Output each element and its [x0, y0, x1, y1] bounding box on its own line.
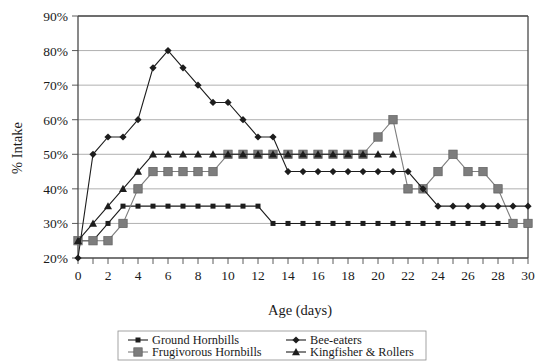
data-point: [464, 167, 472, 175]
data-point: [314, 168, 321, 175]
data-point: [119, 219, 127, 227]
y-axis-title: % Intake: [9, 122, 25, 174]
data-point: [256, 204, 261, 209]
data-point: [299, 168, 306, 175]
data-point: [391, 221, 396, 226]
x-tick-label-4: 8: [195, 268, 202, 283]
intake-vs-age-line-chart: 90%80%70%60%50%40%30%20% 024681012141618…: [0, 0, 543, 364]
x-tick-label-14: 28: [491, 268, 505, 283]
data-point: [344, 168, 351, 175]
data-point: [479, 203, 486, 210]
x-tick-label-7: 14: [281, 268, 295, 283]
y-tick-label-6: 30%: [43, 216, 68, 231]
x-tick-label-12: 24: [431, 268, 445, 283]
chart-legend: Ground HornbillsBee-eatersFrugivorous Ho…: [118, 331, 426, 360]
y-tick-label-3: 60%: [43, 113, 68, 128]
y-tick-label-0: 90%: [43, 9, 68, 24]
data-point: [464, 203, 471, 210]
chart-container: 90%80%70%60%50%40%30%20% 024681012141618…: [0, 0, 543, 364]
data-point: [151, 204, 156, 209]
data-point: [451, 221, 456, 226]
y-axis-tick-labels: 90%80%70%60%50%40%30%20%: [43, 9, 68, 266]
data-point: [271, 221, 276, 226]
x-tick-label-8: 16: [311, 268, 325, 283]
data-point: [181, 204, 186, 209]
data-point: [226, 204, 231, 209]
x-tick-label-3: 6: [165, 268, 172, 283]
x-tick-label-10: 20: [371, 268, 385, 283]
x-tick-label-2: 4: [135, 268, 142, 283]
data-point: [481, 221, 486, 226]
data-point: [494, 185, 502, 193]
data-point: [376, 221, 381, 226]
y-tick-label-7: 20%: [43, 251, 68, 266]
legend-label: Kingfisher & Rollers: [310, 345, 414, 359]
data-point: [209, 167, 217, 175]
x-tick-label-15: 30: [521, 268, 535, 283]
data-point: [74, 254, 81, 261]
data-point: [106, 221, 111, 226]
data-point: [194, 167, 202, 175]
data-point: [406, 221, 411, 226]
data-point: [524, 219, 532, 227]
data-point: [286, 221, 291, 226]
data-point: [121, 204, 126, 209]
data-point: [389, 116, 397, 124]
data-point: [509, 203, 516, 210]
data-point: [421, 221, 426, 226]
data-point: [449, 203, 456, 210]
data-point: [301, 221, 306, 226]
x-tick-label-0: 0: [75, 268, 82, 283]
data-point: [359, 168, 366, 175]
data-point: [496, 221, 501, 226]
data-point: [329, 168, 336, 175]
data-point: [196, 204, 201, 209]
data-point: [374, 168, 381, 175]
data-point: [241, 204, 246, 209]
x-axis-title: Age (days): [268, 302, 332, 319]
data-point: [361, 221, 366, 226]
data-point: [346, 221, 351, 226]
legend-swatch-marker: [134, 348, 142, 356]
legend-swatch-marker: [136, 338, 141, 343]
legend-label: Frugivorous Hornbills: [152, 345, 262, 359]
y-tick-label-5: 40%: [43, 182, 68, 197]
y-tick-label-4: 50%: [43, 147, 68, 162]
x-tick-label-13: 26: [461, 268, 475, 283]
data-point: [436, 221, 441, 226]
x-axis-tick-labels: 024681012141618202224262830: [75, 268, 535, 283]
x-tick-label-6: 12: [251, 268, 265, 283]
data-point: [466, 221, 471, 226]
data-point: [179, 167, 187, 175]
data-point: [149, 167, 157, 175]
y-tick-label-1: 80%: [43, 44, 68, 59]
x-axis-tickmarks: [78, 258, 528, 264]
data-point: [166, 204, 171, 209]
data-point: [104, 237, 112, 245]
data-point: [494, 203, 501, 210]
plot-gridlines: [78, 16, 528, 223]
data-point: [269, 133, 276, 140]
data-point: [164, 167, 172, 175]
data-point: [389, 168, 396, 175]
data-point: [524, 203, 531, 210]
data-point: [434, 167, 442, 175]
data-point: [449, 150, 457, 158]
data-point: [136, 204, 141, 209]
x-tick-label-11: 22: [401, 268, 415, 283]
y-axis-tickmarks: [72, 16, 78, 258]
data-point: [404, 185, 412, 193]
y-tick-label-2: 70%: [43, 78, 68, 93]
data-point: [331, 221, 336, 226]
series-kingfisher-rollers: [74, 150, 397, 244]
x-tick-label-5: 10: [221, 268, 235, 283]
data-point: [284, 168, 291, 175]
data-point: [479, 167, 487, 175]
x-tick-label-1: 2: [105, 268, 112, 283]
x-tick-label-9: 18: [341, 268, 355, 283]
data-point: [211, 204, 216, 209]
data-point: [134, 185, 142, 193]
data-point: [89, 237, 97, 245]
data-point: [316, 221, 321, 226]
data-point: [509, 219, 517, 227]
